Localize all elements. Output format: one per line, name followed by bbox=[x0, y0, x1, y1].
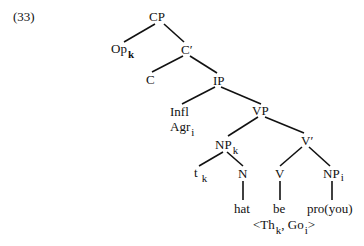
theta-grid-go-index: i bbox=[305, 224, 308, 236]
node-agr-index: i bbox=[191, 126, 194, 138]
node-vbar: V′ bbox=[301, 134, 313, 147]
node-np-i-label: NP bbox=[323, 166, 340, 181]
node-n: N bbox=[238, 167, 247, 180]
node-agr: Agri bbox=[170, 120, 194, 134]
branch-np-t bbox=[199, 152, 223, 166]
node-agr-label: Agr bbox=[170, 119, 190, 134]
node-np-i-index: i bbox=[341, 171, 344, 183]
node-vp: VP bbox=[252, 104, 269, 117]
theta-grid-close: > bbox=[308, 217, 315, 232]
node-np-k: NPk bbox=[215, 138, 238, 152]
terminal-hat: hat bbox=[234, 202, 250, 215]
node-cbar: C′ bbox=[181, 43, 193, 56]
node-t-index: k bbox=[202, 172, 208, 184]
branch-cbar-ip bbox=[190, 56, 217, 73]
terminal-be: be bbox=[273, 202, 285, 215]
branch-cbar-c bbox=[152, 56, 183, 72]
branch-vbar-npi bbox=[309, 147, 330, 166]
node-v: V bbox=[275, 167, 284, 180]
branch-cp-op bbox=[124, 24, 155, 42]
node-np-k-label: NP bbox=[215, 137, 232, 152]
node-infl: Infl bbox=[170, 105, 189, 118]
theta-grid-th-index: k bbox=[276, 224, 282, 236]
branch-ip-infl bbox=[182, 87, 215, 104]
node-op-label: Op bbox=[111, 41, 127, 56]
node-t: tk bbox=[194, 166, 207, 180]
node-cp: CP bbox=[149, 10, 165, 23]
branch-vp-vbar bbox=[265, 117, 304, 133]
theta-grid-open: <Th bbox=[253, 217, 275, 232]
node-np-i: NPi bbox=[323, 167, 344, 181]
branch-vp-np bbox=[228, 117, 258, 136]
node-np-k-index: k bbox=[233, 144, 239, 156]
node-t-label: t bbox=[194, 165, 198, 180]
terminal-pro: pro(you) bbox=[307, 202, 353, 215]
example-number: (33) bbox=[13, 10, 35, 23]
node-c: C bbox=[146, 73, 155, 86]
node-ip: IP bbox=[213, 74, 225, 87]
theta-grid-comma: , Go bbox=[281, 217, 303, 232]
branch-vbar-v bbox=[280, 147, 302, 166]
branch-cp-cbar bbox=[164, 24, 184, 42]
node-op: Opk bbox=[111, 42, 134, 56]
node-op-index: k bbox=[128, 48, 134, 60]
theta-grid: <Thk, Goi> bbox=[253, 218, 315, 232]
branch-ip-vp bbox=[221, 87, 261, 104]
